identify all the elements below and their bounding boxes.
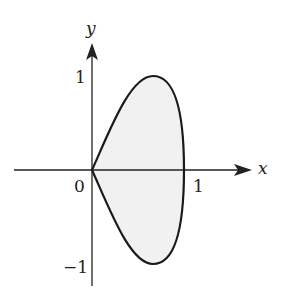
x-axis-label: x (258, 160, 268, 177)
y-tick-neg1-label: −1 (63, 259, 88, 276)
chart: y x 0 1 1 −1 (0, 0, 281, 297)
origin-label: 0 (74, 178, 85, 195)
y-tick-1-label: 1 (75, 69, 86, 86)
plot-area (0, 0, 281, 297)
x-tick-1-label: 1 (193, 178, 204, 195)
y-axis-label: y (86, 20, 96, 37)
